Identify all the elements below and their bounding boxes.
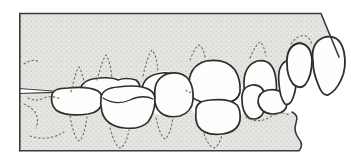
lower-premolar-1 xyxy=(196,100,240,135)
upper-canine xyxy=(287,43,312,87)
dental-occlusion-illustration xyxy=(0,0,351,162)
lower-premolar-2 xyxy=(155,73,193,117)
dental-occlusion-figure xyxy=(0,0,351,162)
lower-molar-2 xyxy=(52,87,103,114)
lower-molar-1 xyxy=(101,86,155,128)
upper-premolar-2 xyxy=(189,60,240,103)
